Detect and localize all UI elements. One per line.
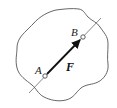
force-vector-f (47, 40, 80, 74)
point-b-label: B (71, 26, 78, 38)
rigid-body-force-diagram: A B F (0, 0, 117, 108)
point-b-marker (81, 35, 85, 39)
point-a-label: A (34, 64, 42, 76)
force-label-f: F (65, 60, 74, 74)
rigid-body-outline (16, 9, 108, 101)
point-a-marker (43, 74, 47, 78)
